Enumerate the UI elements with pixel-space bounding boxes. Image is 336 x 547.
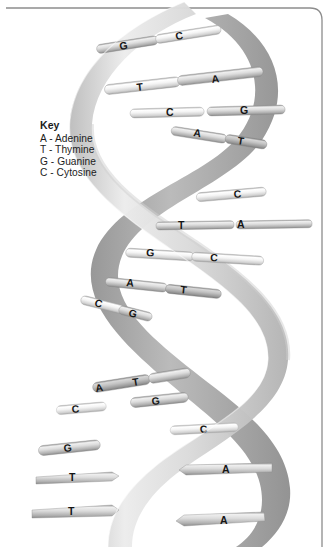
base-label-C-11: C xyxy=(71,402,80,415)
base-label-G-3: G xyxy=(240,104,248,116)
base-label-T-14: T xyxy=(69,471,76,483)
key-entry-thymine: T - Thymine xyxy=(40,144,97,156)
base-label-G-11: G xyxy=(151,394,160,407)
base-label-T-6: T xyxy=(178,219,185,231)
key-entry-adenine: A - Adenine xyxy=(40,133,97,145)
dna-helix-illustration: G C T A C G A T C T A G C xyxy=(0,0,336,547)
base-label-C-5: C xyxy=(233,187,242,200)
base-label-A-6: A xyxy=(237,218,245,230)
key-entry-guanine: G - Guanine xyxy=(40,156,97,168)
base-label-G-7: G xyxy=(146,246,155,258)
dna-helix-figure: G C T A C G A T C T A G C xyxy=(0,0,336,547)
base-label-A-15: A xyxy=(220,514,228,526)
key-title: Key xyxy=(40,120,97,132)
base-label-C-3: C xyxy=(166,106,174,118)
base-label-G-13: G xyxy=(63,441,72,454)
base-label-T-15: T xyxy=(68,505,75,517)
base-label-A-14: A xyxy=(222,463,230,475)
key-legend: Key A - Adenine T - Thymine G - Guanine … xyxy=(40,120,97,179)
key-entry-cytosine: C - Cytosine xyxy=(40,167,97,179)
base-label-C-7: C xyxy=(210,251,219,263)
